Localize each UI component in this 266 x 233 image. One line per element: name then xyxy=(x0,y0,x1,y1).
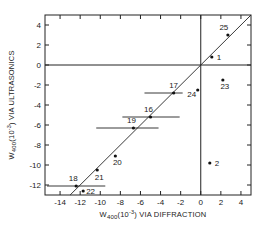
x-tick-label: -6 xyxy=(137,198,145,207)
x-axis-title: W400(10-3) VIA DIFFRACTION xyxy=(100,209,207,220)
x-tick-label: 0 xyxy=(199,198,204,207)
x-tick-label: -4 xyxy=(157,198,165,207)
point-marker xyxy=(96,168,99,171)
point-label: 23 xyxy=(220,82,229,91)
point-label: 2 xyxy=(215,159,220,168)
axis-ticks: -14-12-10-8-6-4-2024-12-10-8-6-4-2024 xyxy=(29,15,251,207)
point-marker xyxy=(196,88,199,91)
point-label: 21 xyxy=(95,173,104,182)
y-tick-label: 4 xyxy=(37,21,42,30)
y-tick-label: -8 xyxy=(34,141,42,150)
y-axis-title: W400(10-3) VIA ULTRASONICS xyxy=(6,50,17,159)
x-tick-label: 4 xyxy=(239,198,244,207)
point-label: 24 xyxy=(187,90,196,99)
point-marker xyxy=(132,126,135,129)
data-point-25: 25 xyxy=(219,23,229,37)
y-tick-label: -6 xyxy=(34,121,42,130)
point-label: 22 xyxy=(86,187,95,196)
scatter-chart: -14-12-10-8-6-4-2024-12-10-8-6-4-2024 25… xyxy=(0,0,266,233)
diagonal-y-equals-x-line xyxy=(70,15,251,195)
x-tick-label: -10 xyxy=(94,198,106,207)
data-point-23: 23 xyxy=(220,78,229,91)
y-tick-label: -4 xyxy=(34,101,42,110)
data-point-19: 19 xyxy=(96,116,158,130)
y-tick-label: -2 xyxy=(34,81,42,90)
x-tick-label: -12 xyxy=(74,198,86,207)
data-point-2: 2 xyxy=(208,159,220,168)
point-marker xyxy=(82,189,85,192)
data-point-21: 21 xyxy=(95,168,104,182)
x-tick-label: -14 xyxy=(54,198,66,207)
point-marker xyxy=(226,33,229,36)
point-label: 1 xyxy=(217,53,222,62)
x-tick-label: -2 xyxy=(177,198,185,207)
data-point-24: 24 xyxy=(187,88,199,99)
point-label: 19 xyxy=(127,116,136,125)
data-point-17: 17 xyxy=(144,81,182,95)
point-label: 25 xyxy=(219,23,228,32)
point-marker xyxy=(75,184,78,187)
data-points: 2512324171619202118222 xyxy=(47,23,230,196)
point-marker xyxy=(172,91,175,94)
point-marker xyxy=(149,115,152,118)
point-label: 18 xyxy=(69,174,78,183)
x-tick-label: 2 xyxy=(219,198,224,207)
data-point-20: 20 xyxy=(113,154,122,167)
y-tick-label: 0 xyxy=(37,61,42,70)
point-marker xyxy=(210,55,213,58)
point-label: 20 xyxy=(113,158,122,167)
point-marker xyxy=(208,161,211,164)
point-label: 16 xyxy=(144,105,153,114)
x-tick-label: -8 xyxy=(117,198,125,207)
y-tick-label: 2 xyxy=(37,41,42,50)
y-tick-label: -10 xyxy=(29,161,41,170)
point-label: 17 xyxy=(169,81,178,90)
y-tick-label: -12 xyxy=(29,181,41,190)
